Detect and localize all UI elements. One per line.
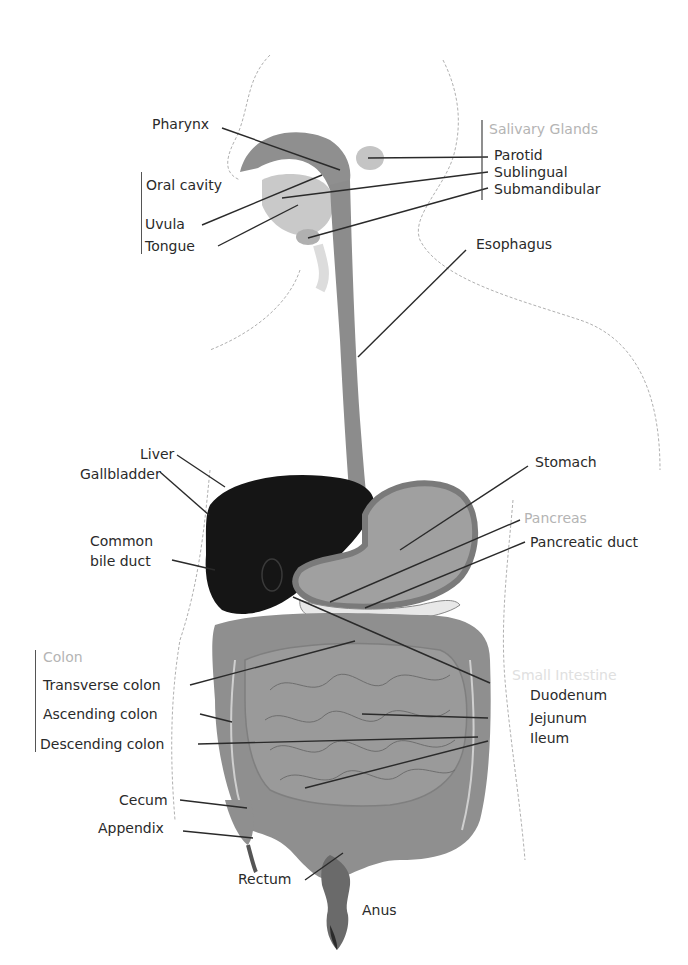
label-parotid: Parotid — [494, 147, 543, 163]
label-cecum: Cecum — [119, 792, 168, 808]
label-descending-colon: Descending colon — [40, 736, 164, 752]
submandibular-gland — [296, 229, 320, 245]
label-anus: Anus — [362, 902, 397, 918]
label-salivary-glands: Salivary Glands — [489, 121, 598, 137]
label-tongue: Tongue — [145, 238, 195, 254]
appendix-shape — [248, 845, 256, 872]
label-pharynx: Pharynx — [152, 116, 209, 132]
label-liver: Liver — [140, 446, 174, 462]
label-esophagus: Esophagus — [476, 236, 552, 252]
label-pancreatic-duct: Pancreatic duct — [530, 534, 638, 550]
label-oral-cavity: Oral cavity — [146, 177, 222, 193]
rectum-shape — [321, 855, 350, 950]
colon-bracket — [35, 650, 36, 752]
label-submandibular: Submandibular — [494, 181, 601, 197]
oral-cavity-bracket — [141, 172, 142, 254]
label-stomach: Stomach — [535, 454, 597, 470]
esophagus-shape — [330, 180, 370, 525]
label-jejunum: Jejunum — [530, 710, 587, 726]
small-intestine-shape — [245, 643, 467, 806]
label-common-bile-duct-1: Common — [90, 533, 153, 549]
label-uvula: Uvula — [145, 216, 185, 232]
label-appendix: Appendix — [98, 820, 164, 836]
label-sublingual: Sublingual — [494, 164, 568, 180]
label-colon: Colon — [43, 649, 83, 665]
label-gallbladder: Gallbladder — [80, 466, 161, 482]
label-transverse-colon: Transverse colon — [43, 677, 161, 693]
neck-structure — [318, 245, 324, 290]
label-ileum: Ileum — [530, 730, 569, 746]
label-duodenum: Duodenum — [530, 687, 607, 703]
oral-cavity-organs — [240, 132, 384, 290]
label-small-intestine: Small Intestine — [512, 667, 617, 683]
label-ascending-colon: Ascending colon — [43, 706, 158, 722]
label-rectum: Rectum — [238, 871, 291, 887]
label-common-bile-duct-2: bile duct — [90, 553, 151, 569]
label-pancreas: Pancreas — [524, 510, 587, 526]
